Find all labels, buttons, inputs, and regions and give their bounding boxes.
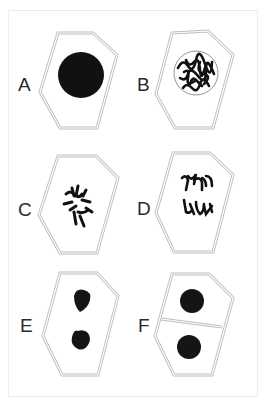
- cell-a: [40, 33, 117, 128]
- panel-label-e: E: [20, 316, 33, 335]
- panel-label-f: F: [138, 316, 150, 335]
- nucleus-a: [58, 52, 104, 98]
- chromosomes-d-anaphase: [182, 174, 212, 214]
- daughter-nucleus-e-bottom: [72, 330, 90, 349]
- cell-b: [156, 31, 233, 128]
- cell-f: [155, 274, 233, 375]
- cell-e: [43, 273, 118, 375]
- daughter-nucleus-e-top: [74, 290, 90, 312]
- daughter-nucleus-f-bottom: [177, 335, 201, 359]
- mitosis-diagram: [0, 0, 270, 407]
- panel-label-b: B: [137, 75, 150, 94]
- panel-label-c: C: [18, 200, 32, 219]
- panel-label-a: A: [18, 75, 31, 94]
- cell-c: [39, 156, 118, 253]
- panel-label-d: D: [137, 199, 151, 218]
- cell-d: [156, 153, 233, 252]
- daughter-nucleus-f-top: [180, 289, 204, 313]
- chromosomes-c-metaphase: [64, 186, 92, 226]
- nucleus-b-prophase: [174, 51, 218, 95]
